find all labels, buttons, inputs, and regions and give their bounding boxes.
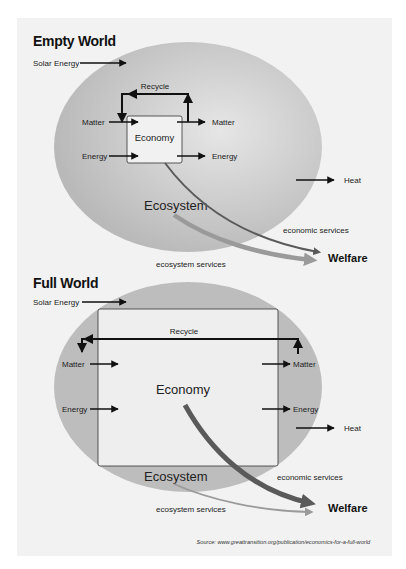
full-matter-in-label: Matter — [62, 360, 85, 369]
empty-recycle-label: Recycle — [141, 82, 170, 91]
empty-world-section: Empty World Solar Energy Economy Recycle… — [33, 33, 368, 269]
full-world-section: Full World Solar Energy Economy Recycle … — [33, 275, 368, 514]
empty-heat-label: Heat — [344, 176, 362, 185]
empty-matter-in-label: Matter — [82, 118, 105, 127]
full-world-title: Full World — [33, 275, 98, 291]
empty-ecosystem-services-label: ecosystem services — [156, 260, 226, 269]
empty-ecosystem-label: Ecosystem — [144, 198, 208, 213]
full-solar-energy-label: Solar Energy — [33, 298, 79, 307]
full-ecosystem-services-label: ecosystem services — [156, 505, 226, 514]
empty-matter-out-label: Matter — [212, 118, 235, 127]
diagram-canvas: Empty World Solar Energy Economy Recycle… — [0, 0, 406, 569]
empty-energy-out-label: Energy — [212, 152, 237, 161]
full-welfare-label: Welfare — [328, 502, 368, 514]
empty-economy-label: Economy — [135, 132, 175, 143]
full-recycle-label: Recycle — [170, 327, 199, 336]
empty-welfare-label: Welfare — [328, 252, 368, 264]
empty-solar-energy-label: Solar Energy — [33, 59, 79, 68]
full-matter-out-label: Matter — [293, 360, 316, 369]
full-economy-label: Economy — [156, 382, 211, 397]
source-citation: Source: www.greattransition.org/publicat… — [197, 539, 371, 545]
empty-world-title: Empty World — [33, 33, 116, 49]
full-ecosystem-label: Ecosystem — [144, 469, 208, 484]
full-energy-out-label: Energy — [293, 405, 318, 414]
full-energy-in-label: Energy — [62, 405, 87, 414]
empty-energy-in-label: Energy — [82, 152, 107, 161]
empty-economic-services-label: economic services — [283, 226, 349, 235]
full-economic-services-label: economic services — [277, 473, 343, 482]
full-heat-label: Heat — [344, 424, 362, 433]
empty-ecosystem-ellipse — [54, 42, 322, 252]
